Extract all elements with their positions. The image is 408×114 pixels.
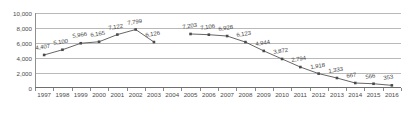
data-point-marker xyxy=(317,72,320,75)
data-point-marker xyxy=(354,82,357,85)
x-axis-tick-label: 2007 xyxy=(218,91,236,99)
y-axis: 02,0004,0006,0008,00010,000 xyxy=(0,0,34,114)
y-axis-tick-label: 6,000 xyxy=(17,40,32,47)
data-point-marker xyxy=(43,54,46,57)
data-point-marker xyxy=(189,33,192,36)
data-point-marker xyxy=(299,66,302,69)
x-axis-tick-label: 1998 xyxy=(53,91,71,99)
data-point-marker xyxy=(116,33,119,36)
data-point-marker xyxy=(262,50,265,53)
x-axis-tick-label: 2012 xyxy=(310,91,328,99)
x-axis-tick-label: 2015 xyxy=(364,91,382,99)
x-axis-tick-label: 2008 xyxy=(236,91,254,99)
data-point-marker xyxy=(226,35,229,38)
x-axis-tick-label: 2001 xyxy=(108,91,126,99)
data-label: 7,799 xyxy=(127,17,143,26)
x-axis-tick-label: 2014 xyxy=(346,91,364,99)
data-point-marker xyxy=(134,28,137,31)
y-axis-tick-label: 0 xyxy=(29,85,32,92)
x-axis-tick-label: 1999 xyxy=(72,91,90,99)
data-point-marker xyxy=(79,42,82,45)
x-axis-tick-label: 2004 xyxy=(163,91,181,99)
y-axis-tick-label: 8,000 xyxy=(17,25,32,32)
data-point-marker xyxy=(208,33,211,36)
x-axis-tick-label: 2011 xyxy=(291,91,309,99)
y-axis-tick-label: 4,000 xyxy=(17,55,32,62)
x-axis-tick-label: 2013 xyxy=(328,91,346,99)
data-point-marker xyxy=(61,48,64,51)
data-point-marker xyxy=(244,41,247,44)
y-axis-tick-label: 2,000 xyxy=(17,70,32,77)
x-axis-tick-label: 1997 xyxy=(35,91,53,99)
x-axis-tick-label: 2005 xyxy=(181,91,199,99)
data-point-marker xyxy=(98,40,101,43)
y-axis-tick-label: 10,000 xyxy=(13,10,32,17)
x-axis-tick-label: 2002 xyxy=(127,91,145,99)
data-point-marker xyxy=(336,77,339,80)
x-axis-tick xyxy=(401,88,402,91)
x-axis-tick-label: 2003 xyxy=(145,91,163,99)
x-axis-tick-label: 2006 xyxy=(200,91,218,99)
data-point-marker xyxy=(281,58,284,61)
x-axis-tick-label: 2009 xyxy=(255,91,273,99)
data-point-marker xyxy=(153,41,156,44)
x-axis: 1997199819992000200120022003200420052006… xyxy=(35,88,401,106)
line-chart: 02,0004,0006,0008,00010,000 199719981999… xyxy=(0,0,408,114)
data-label: 566 xyxy=(364,72,375,80)
x-axis-tick-label: 2000 xyxy=(90,91,108,99)
x-axis-tick-label: 2010 xyxy=(273,91,291,99)
data-point-marker xyxy=(372,82,375,85)
x-axis-tick-label: 2016 xyxy=(383,91,401,99)
